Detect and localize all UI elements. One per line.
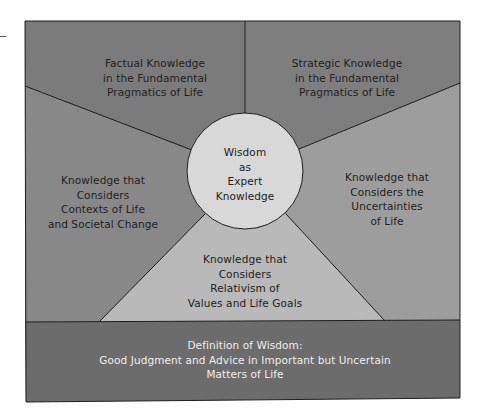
label-top-left: Factual Knowledge in the Fundamental Pra… — [80, 56, 230, 100]
label-top-right: Strategic Knowledge in the Fundamental P… — [272, 56, 422, 100]
definition-title: Definition of Wisdom: — [60, 338, 430, 353]
label-bottom: Knowledge that Considers Relativism of V… — [180, 252, 310, 310]
label-right: Knowledge that Considers the Uncertainti… — [322, 170, 452, 228]
label-left: Knowledge that Considers Contexts of Lif… — [38, 173, 168, 231]
label-center: Wisdom as Expert Knowledge — [195, 145, 295, 203]
definition-of-wisdom: Definition of Wisdom: Good Judgment and … — [60, 338, 430, 382]
